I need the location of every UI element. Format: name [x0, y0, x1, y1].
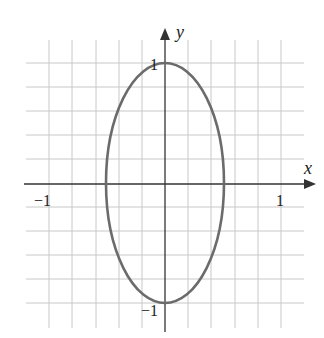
x-tick-label-pos-one: 1: [276, 192, 284, 209]
y-axis-arrow-icon: [160, 28, 170, 40]
x-tick-label-neg-one: −1: [34, 192, 51, 209]
y-tick-label-pos-one: 1: [150, 56, 158, 73]
axes: [24, 36, 310, 332]
y-axis-label: y: [174, 22, 184, 42]
x-axis-arrow-icon: [304, 179, 316, 189]
y-tick-label-neg-one: −1: [141, 302, 158, 319]
x-axis-label: x: [303, 158, 312, 178]
ellipse-plot: y x −1 1 1 −1: [0, 0, 324, 338]
